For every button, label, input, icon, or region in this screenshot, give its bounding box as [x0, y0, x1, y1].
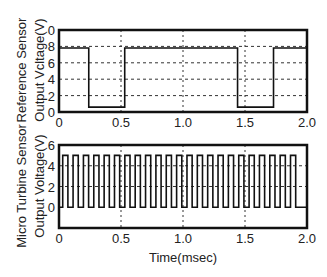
x-tick-label: 2.0	[298, 115, 316, 130]
y-tick-label: 0	[48, 23, 55, 38]
x-tick-label: 2.0	[298, 231, 316, 246]
y-tick-label: 4	[48, 72, 55, 87]
y-axis-label: Output Voltage(V)	[32, 134, 47, 237]
x-tick-label: 0.5	[112, 115, 130, 130]
y-tick-label: 0	[48, 200, 55, 215]
x-tick-label: 1.0	[174, 231, 192, 246]
x-axis-label: Time(msec)	[149, 250, 217, 265]
y-axis-label: Micro Turbine Sensor	[14, 124, 29, 248]
x-tick-label: 1.0	[174, 115, 192, 130]
y-tick-label: 2	[48, 180, 55, 195]
y-axis-label: Output Vcltage(V)	[32, 18, 47, 121]
y-tick-label: 8	[48, 39, 55, 54]
x-tick-label: 1.5	[236, 115, 254, 130]
x-tick-label: 0	[55, 231, 62, 246]
x-tick-label: 0	[55, 115, 62, 130]
y-tick-label: 4	[48, 159, 55, 174]
x-tick-label: 1.5	[236, 231, 254, 246]
x-tick-label: 0.5	[112, 231, 130, 246]
y-axis-label: Reference Sensor	[14, 17, 29, 122]
micro-turbine-sensor-chart: 00.51.01.52.00246Micro Turbine SensorOut…	[14, 124, 316, 265]
figure: 00.51.01.52.0024680Reference SensorOutpu…	[0, 0, 327, 277]
y-tick-label: 2	[48, 89, 55, 104]
y-tick-label: 0	[48, 105, 55, 120]
y-tick-label: 6	[48, 56, 55, 71]
y-tick-label: 6	[48, 138, 55, 153]
reference-sensor-chart: 00.51.01.52.0024680Reference SensorOutpu…	[14, 17, 316, 130]
grid-lines	[59, 30, 307, 112]
